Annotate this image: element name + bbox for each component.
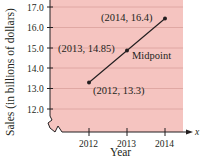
x-axis-symbol: x [194, 127, 200, 137]
y-tick-16: 16.0 [27, 23, 44, 33]
y-axis-label: Sales (in billions of dollars) [4, 10, 18, 136]
annotation-2012: (2012, 13.3) [93, 85, 145, 97]
data-point-2012 [87, 81, 91, 85]
x-tick-2012: 2012 [79, 139, 98, 149]
y-tick-13: 13.0 [27, 84, 44, 94]
chart-canvas: x 17.0 16.0 15.0 14.0 13.0 12.0 2012 201… [0, 0, 204, 161]
x-axis-label: Year [110, 146, 131, 158]
y-tick-17: 17.0 [27, 3, 44, 13]
y-tick-14: 14.0 [27, 64, 44, 74]
annotation-2014: (2014, 16.4) [101, 12, 153, 24]
y-tick-15: 15.0 [27, 44, 44, 54]
annotation-midpoint: Midpoint [132, 50, 171, 61]
data-point-2014 [163, 17, 167, 21]
x-tick-2014: 2014 [155, 139, 174, 149]
y-tick-12: 12.0 [27, 105, 44, 115]
x-axis-arrow-icon [186, 130, 193, 135]
data-point-2013-midpoint [125, 49, 129, 53]
annotation-2013: (2013, 14.85) [58, 43, 115, 55]
